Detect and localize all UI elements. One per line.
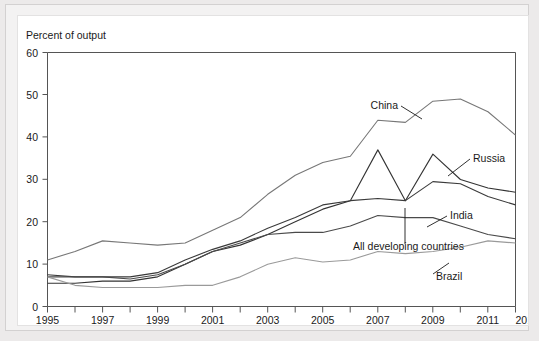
y-tick-label-10: 10 bbox=[26, 258, 38, 270]
figure-outer-frame: Percent of output bbox=[5, 4, 529, 331]
x-tick-label-1995: 1995 bbox=[36, 314, 60, 325]
x-axis-ticks bbox=[48, 307, 516, 313]
x-tick-label-2012: 2012 bbox=[516, 314, 529, 325]
y-axis-title: Percent of output bbox=[26, 29, 106, 41]
x-tick-label-2003: 2003 bbox=[256, 314, 280, 325]
y-axis-tick-labels: 60 50 40 30 20 10 0 bbox=[26, 47, 38, 313]
chart-panel: Percent of output bbox=[17, 15, 529, 326]
y-tick-label-0: 0 bbox=[32, 301, 38, 313]
series-label-all-developing-countries: All developing countries bbox=[353, 240, 464, 252]
leader-line-russia bbox=[448, 159, 470, 176]
series-label-china: China bbox=[371, 99, 399, 111]
data-series-group bbox=[48, 99, 516, 287]
axis-lines bbox=[48, 53, 516, 307]
x-tick-label-2005: 2005 bbox=[311, 314, 335, 325]
series-label-russia: Russia bbox=[473, 152, 505, 164]
y-tick-label-60: 60 bbox=[26, 47, 38, 59]
y-tick-label-50: 50 bbox=[26, 89, 38, 101]
y-tick-label-20: 20 bbox=[26, 216, 38, 228]
x-tick-label-1999: 1999 bbox=[146, 314, 170, 325]
x-tick-label-2001: 2001 bbox=[201, 314, 225, 325]
y-tick-label-30: 30 bbox=[26, 173, 38, 185]
series-label-brazil: Brazil bbox=[436, 270, 462, 282]
y-axis-ticks bbox=[43, 53, 48, 307]
x-tick-label-1997: 1997 bbox=[91, 314, 115, 325]
series-line-india bbox=[48, 182, 516, 277]
series-label-india: India bbox=[450, 209, 473, 221]
x-tick-label-2009: 2009 bbox=[421, 314, 445, 325]
x-axis-tick-labels: 1995 1997 1999 2001 2003 2005 2007 2009 … bbox=[36, 314, 528, 325]
x-tick-label-2007: 2007 bbox=[366, 314, 390, 325]
x-tick-label-2011: 2011 bbox=[477, 314, 500, 325]
series-annotations: ChinaRussiaIndiaAll developing countries… bbox=[353, 99, 505, 282]
line-chart: Percent of output bbox=[18, 16, 528, 325]
series-line-china bbox=[48, 99, 516, 260]
y-tick-label-40: 40 bbox=[26, 131, 38, 143]
figure-container: Percent of output bbox=[0, 0, 539, 341]
